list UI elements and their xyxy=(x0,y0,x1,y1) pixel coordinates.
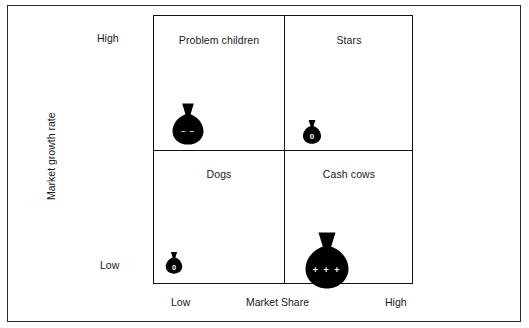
y-axis-title: Market growth rate xyxy=(45,86,59,226)
money-bag-icon-cash-cows: + + + xyxy=(301,231,353,291)
quadrant-label-problem-children: Problem children xyxy=(154,34,284,46)
figure-frame: Market growth rate High Low Low Market S… xyxy=(7,5,521,322)
money-bag-icon-problem-children: – – xyxy=(169,102,207,146)
money-bag-icon-dogs: 0 xyxy=(164,251,184,275)
quadrant-label-dogs: Dogs xyxy=(154,168,284,180)
y-axis-tick-low: Low xyxy=(100,259,119,271)
x-axis-title: Market Share xyxy=(246,296,309,308)
growth-share-matrix: Problem children Stars Dogs Cash cows – … xyxy=(153,15,413,284)
quadrant-label-stars: Stars xyxy=(284,34,414,46)
x-axis-tick-high: High xyxy=(385,296,407,308)
money-bag-icon-stars: 0 xyxy=(301,119,323,145)
x-axis-tick-low: Low xyxy=(171,296,190,308)
y-axis-tick-high: High xyxy=(97,32,119,44)
quadrant-label-cash-cows: Cash cows xyxy=(284,168,414,180)
